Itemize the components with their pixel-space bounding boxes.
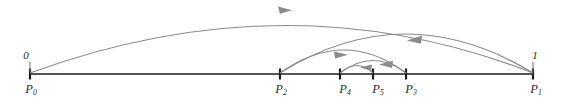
point-label-P3-base: P — [405, 82, 413, 96]
point-label-P1: P1 — [530, 83, 542, 97]
point-label-P0-subscript: 0 — [33, 88, 37, 97]
point-label-P5: P5 — [372, 83, 384, 97]
point-label-P3-subscript: 3 — [413, 88, 417, 97]
point-label-P2: P2 — [275, 83, 287, 97]
point-label-P2-base: P — [275, 82, 283, 96]
transfer-arcs — [30, 26, 533, 74]
value-label-P0: 0 — [23, 50, 29, 61]
point-label-P4-base: P — [339, 82, 347, 96]
point-label-P0: P0 — [25, 83, 37, 97]
point-label-P1-subscript: 1 — [538, 88, 542, 97]
arrowhead-right-arc-p0-p1 — [278, 6, 292, 13]
arc-p0-p1 — [30, 26, 533, 74]
point-label-P2-subscript: 2 — [283, 88, 287, 97]
point-label-P3: P3 — [405, 83, 417, 97]
value-label-P1: 1 — [532, 50, 538, 61]
point-label-P5-base: P — [372, 82, 380, 96]
point-label-P1-base: P — [530, 82, 538, 96]
arrowhead-left-arc-p4-p5 — [360, 64, 372, 70]
point-label-P4: P4 — [339, 83, 351, 97]
arc-p2-p3 — [280, 50, 406, 73]
endpoint-value-stems — [30, 62, 533, 72]
arrowhead-right-arc-p2-p3 — [334, 52, 348, 59]
point-label-P5-subscript: 5 — [380, 88, 384, 97]
point-label-P0-base: P — [25, 82, 33, 96]
bisection-interval-diagram: 0 1 P0 P2 P4 P5 P3 P1 — [0, 0, 566, 104]
point-label-P4-subscript: 4 — [347, 88, 351, 97]
